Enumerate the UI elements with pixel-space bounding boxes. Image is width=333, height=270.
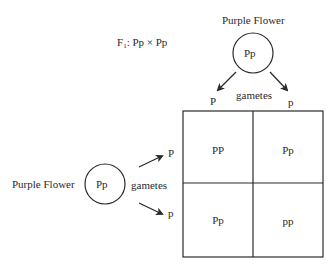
punnett-cell-1-2: Pp [253,144,323,156]
left-arrow-bottom [139,203,162,214]
left-gametes-label: gametes [131,180,167,191]
top-parent-genotype: Pp [244,48,256,59]
top-gametes-label: gametes [236,90,272,101]
left-parent-genotype: Pp [96,179,108,190]
top-gamete-1: P [210,96,216,107]
diagram-graphics [0,0,333,270]
left-arrow-top [139,156,162,167]
top-gamete-2: p [288,97,294,108]
punnett-cell-1-1: PP [183,144,253,156]
left-gamete-1: P [168,148,174,159]
top-arrow-right [270,72,287,90]
top-parent-label: Purple Flower [222,15,285,26]
left-parent-label: Purple Flower [12,179,75,190]
punnett-cell-2-2: pp [253,215,323,227]
top-arrow-left [218,72,236,90]
punnett-cell-2-1: Pp [183,214,253,226]
left-gamete-2: p [168,208,174,219]
